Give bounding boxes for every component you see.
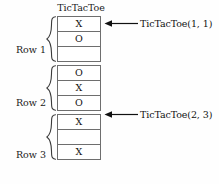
left-arrow-icon [104, 109, 138, 120]
row-brace-3 [46, 114, 57, 160]
array-cell[interactable]: X [57, 144, 101, 160]
row-label-3: Row 3 [2, 149, 46, 160]
array-cell[interactable]: O [57, 65, 101, 81]
array-cell[interactable] [57, 129, 101, 145]
annotation-cell-2-3: TicTacToe(2, 3) [104, 109, 212, 120]
row-brace-2 [46, 65, 57, 111]
row-group-2: O X O [57, 65, 101, 111]
tictactoe-array-diagram: TicTacToe Row 1 Row 2 Row 3 X O O X O X [0, 0, 219, 184]
annotation-label: TicTacToe(2, 3) [140, 109, 212, 120]
array-cell[interactable] [57, 46, 101, 62]
annotation-cell-1-1: TicTacToe(1, 1) [104, 18, 212, 29]
annotation-label: TicTacToe(1, 1) [140, 18, 212, 29]
array-cell[interactable]: O [57, 31, 101, 47]
row-group-1: X O [57, 16, 101, 62]
array-cell[interactable]: X [57, 80, 101, 96]
row-label-2: Row 2 [2, 97, 46, 108]
array-title: TicTacToe [50, 2, 112, 13]
row-label-1: Row 1 [2, 44, 46, 55]
array-column: X O O X O X X [57, 16, 101, 160]
row-brace-1 [46, 16, 57, 62]
row-group-3: X X [57, 114, 101, 160]
array-cell[interactable]: O [57, 95, 101, 111]
array-cell[interactable]: X [57, 16, 101, 32]
left-arrow-icon [104, 18, 138, 29]
array-cell[interactable]: X [57, 114, 101, 130]
